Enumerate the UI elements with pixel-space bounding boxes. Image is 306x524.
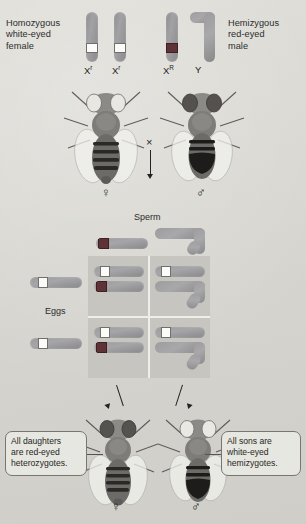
egg-gamete-row1: [30, 277, 82, 288]
offspring-son-callout-tail: [205, 454, 221, 455]
punnett-cell-son-2-chromosome-x-white: [155, 327, 205, 338]
allele-band-white: [100, 266, 110, 277]
allele-band-white: [38, 338, 48, 349]
allele-band-red: [96, 281, 107, 292]
punnett-cell-son-1-chromosome-y: [155, 281, 205, 311]
allele-band-white: [38, 277, 48, 288]
eggs-label: Eggs: [45, 306, 66, 316]
parent-female-gender-symbol: ♀: [101, 186, 111, 199]
offspring-son-arrow-head: [185, 403, 192, 410]
offspring-daughter-callout: All daughters are red-eyed heterozygotes…: [5, 431, 87, 476]
diagram-canvas: Homozygous white-eyed female Hemizygous …: [0, 0, 306, 524]
parent-female-chromosome-2: [114, 12, 126, 62]
offspring-daughter-arrow-line: [116, 385, 124, 406]
parent-female-chromosome-1: [86, 12, 98, 62]
parent-male-gender-symbol: ♂: [196, 186, 206, 199]
punnett-cell-daughter-1-chromosome-x-white: [94, 266, 144, 277]
parent-male-fly: [158, 84, 246, 188]
punnett-grid-line-horizontal: [88, 316, 210, 318]
offspring-daughter-gender-symbol: ♀: [111, 500, 121, 513]
offspring-daughter-callout-tail: [87, 454, 103, 455]
sperm-gamete-y: [155, 228, 205, 254]
offspring-daughter-arrow-head: [104, 403, 111, 410]
cross-arrow-line: [150, 150, 151, 176]
parent-male-chromosome-y: [190, 12, 216, 62]
punnett-cell-son-1-chromosome-x-white: [155, 266, 205, 277]
parent-female-fly: [62, 84, 150, 188]
sperm-label: Sperm: [134, 212, 161, 222]
parent-male-caption: Hemizygous red-eyed male: [228, 18, 302, 52]
cross-symbol: ×: [146, 136, 152, 148]
punnett-cell-daughter-2-chromosome-x-red: [94, 342, 144, 353]
allele-band-red: [166, 43, 178, 53]
allele-band-red: [98, 238, 109, 249]
offspring-daughter-fly: [78, 412, 158, 510]
parent-male-chromosome-x: [166, 12, 178, 62]
sperm-gamete-x-red: [96, 238, 148, 249]
allele-band-white: [86, 43, 98, 53]
allele-label-female-2: Xr: [112, 64, 120, 76]
allele-band-white: [161, 327, 171, 338]
allele-band-white: [161, 266, 171, 277]
punnett-cell-son-2-chromosome-y: [155, 342, 205, 374]
punnett-cell-daughter-1-chromosome-x-red: [94, 281, 144, 292]
offspring-son-callout: All sons are white-eyed hemizygotes.: [221, 431, 301, 476]
allele-band-red: [96, 342, 107, 353]
parent-female-caption: Homozygous white-eyed female: [6, 18, 78, 52]
punnett-cell-daughter-2-chromosome-x-white: [94, 327, 144, 338]
allele-label-female-1: Xr: [84, 64, 92, 76]
offspring-son-arrow-line: [175, 385, 183, 406]
allele-band-white: [114, 43, 126, 53]
allele-label-male-y: Y: [195, 64, 201, 75]
egg-gamete-row2: [30, 338, 82, 349]
offspring-son-gender-symbol: ♂: [191, 500, 201, 513]
allele-label-male-x: XR: [163, 64, 174, 76]
cross-arrow-head: [147, 174, 153, 179]
allele-band-white: [100, 327, 110, 338]
